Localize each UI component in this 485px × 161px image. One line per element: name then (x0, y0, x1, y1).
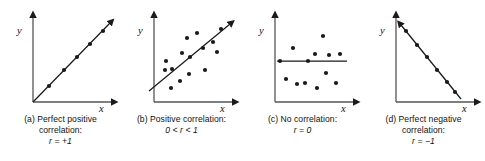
data-point (211, 40, 215, 44)
scatter-plot-a: y x (0, 4, 121, 112)
trend-line (33, 23, 110, 102)
panel-c-caption: (c) No correlation: r = 0 (242, 114, 363, 136)
panel-c: y x (c) No correlation: r = 0 (242, 0, 363, 161)
data-point (164, 59, 168, 63)
caption-r-label: r = −1 (363, 136, 484, 147)
panel-a: y x (a) Perfect positive correlation: r … (0, 0, 121, 161)
data-point (315, 86, 319, 90)
data-point (453, 90, 457, 94)
data-point (178, 79, 182, 83)
data-point (180, 51, 184, 55)
caption-r-label: 0 < r < 1 (121, 125, 242, 136)
data-point (338, 52, 342, 56)
data-point (185, 36, 189, 40)
caption-line: (c) No correlation: (242, 114, 363, 125)
data-point (201, 46, 205, 50)
data-point (195, 31, 199, 35)
data-point (404, 29, 408, 33)
caption-line: (d) Perfect negative (363, 114, 484, 125)
data-point (163, 68, 167, 72)
panel-b-caption: (b) Positive correlation: 0 < r < 1 (121, 114, 242, 136)
data-point (62, 68, 66, 72)
correlation-scatter-figure: y x (a) Perfect positive correlation: r … (0, 0, 485, 161)
panel-a-caption: (a) Perfect positive correlation: r = +1 (0, 114, 121, 148)
data-point (170, 67, 174, 71)
scatter-plot-b: y x (121, 4, 242, 112)
data-point (187, 72, 191, 76)
panel-a-plot: y x (0, 4, 121, 112)
data-point (445, 80, 449, 84)
data-point (321, 34, 325, 38)
caption-r-label: r = +1 (0, 136, 121, 147)
scatter-plot-c: y x (242, 4, 363, 112)
caption-line: (a) Perfect positive (0, 114, 121, 125)
caption-line: (b) Positive correlation: (121, 114, 242, 125)
x-axis-label: x (219, 103, 225, 112)
data-point (334, 81, 338, 85)
x-axis-label: x (461, 103, 467, 112)
y-axis-label: y (258, 25, 264, 36)
data-point (101, 29, 105, 33)
data-point (203, 68, 207, 72)
data-point (291, 46, 295, 50)
data-point (295, 82, 299, 86)
data-point (215, 50, 219, 54)
trend-line (401, 25, 461, 99)
caption-line: correlation: (363, 125, 484, 136)
data-point (324, 71, 328, 75)
data-point (188, 55, 192, 59)
data-point (415, 43, 419, 47)
y-axis-label: y (137, 25, 143, 36)
data-point (327, 53, 331, 57)
caption-r-label: r = 0 (242, 125, 363, 136)
panel-d-plot: y x (363, 4, 484, 112)
data-point (306, 59, 310, 63)
panel-c-plot: y x (242, 4, 363, 112)
caption-line: correlation: (0, 125, 121, 136)
data-point (303, 81, 307, 85)
y-axis-label: y (16, 25, 22, 36)
data-point (313, 52, 317, 56)
panel-d-caption: (d) Perfect negative correlation: r = −1 (363, 114, 484, 148)
data-point (169, 86, 173, 90)
scatter-plot-d: y x (363, 4, 484, 112)
data-point (425, 55, 429, 59)
x-axis-label: x (340, 103, 346, 112)
data-point (435, 68, 439, 72)
panel-b-plot: y x (121, 4, 242, 112)
panel-b: y x (b) Positive correlation: 0 < r < 1 (121, 0, 242, 161)
data-point (284, 77, 288, 81)
data-point (219, 27, 223, 31)
data-point (88, 42, 92, 46)
data-point (47, 84, 51, 88)
data-point (278, 59, 282, 63)
y-axis-label: y (379, 25, 385, 36)
data-point (75, 55, 79, 59)
x-axis-label: x (98, 103, 104, 112)
data-points (278, 34, 342, 90)
panel-d: y x (d) Perfect negative correlation: r … (363, 0, 484, 161)
